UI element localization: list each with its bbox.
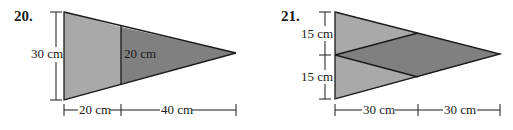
base-label-1: 30 cm <box>363 102 395 117</box>
height-label-top: 15 cm <box>301 26 333 41</box>
height-label-bottom: 15 cm <box>301 69 333 84</box>
figure-20: 20. 30 cm 20 cm 20 cm 40 cm <box>14 8 236 117</box>
inner-label: 20 cm <box>124 46 156 61</box>
figure-number: 20. <box>14 8 33 24</box>
base-label-2: 30 cm <box>444 102 476 117</box>
height-label: 30 cm <box>31 46 63 61</box>
diagram-canvas: 20. 30 cm 20 cm 20 cm 40 cm 21. <box>0 0 513 130</box>
figure-number: 21. <box>281 8 300 24</box>
figure-21: 21. 15 cm 15 cm 30 cm 30 cm <box>281 8 500 117</box>
base-label-2: 40 cm <box>161 102 193 117</box>
base-label-1: 20 cm <box>79 102 111 117</box>
